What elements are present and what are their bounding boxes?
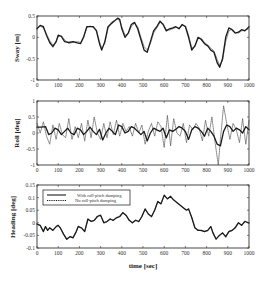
- y-tick-label: -0.1: [26, 245, 35, 251]
- roll-ylabel: Roll [deg]: [13, 118, 21, 147]
- x-tick-label: 100: [54, 250, 63, 256]
- y-tick-label: 0.1: [28, 195, 35, 201]
- x-tick-label: 100: [54, 82, 63, 88]
- y-tick-label: 0.15: [25, 182, 35, 188]
- x-tick-label: 700: [181, 167, 190, 173]
- y-tick-label: 0.5: [28, 114, 35, 120]
- x-tick-label: 100: [54, 167, 63, 173]
- x-tick-label: 1000: [244, 167, 255, 173]
- x-tick-label: 600: [160, 250, 169, 256]
- x-tick-label: 700: [181, 82, 190, 88]
- x-tick-label: 1000: [244, 82, 255, 88]
- x-tick-label: 400: [118, 250, 127, 256]
- x-tick-label: 400: [118, 82, 127, 88]
- x-tick-label: 300: [96, 82, 105, 88]
- sway-panel: 010020030040050060070080090010000.50-0.5…: [26, 13, 254, 88]
- y-tick-label: 0: [32, 34, 35, 40]
- y-tick-label: 0: [32, 220, 35, 226]
- x-tick-label: 500: [139, 167, 148, 173]
- legend-dotted-label: No roll-pitch damping: [75, 198, 117, 203]
- x-tick-label: 0: [36, 167, 39, 173]
- x-tick-label: 500: [139, 250, 148, 256]
- x-tick-label: 600: [160, 167, 169, 173]
- x-tick-label: 0: [36, 82, 39, 88]
- x-tick-label: 300: [96, 250, 105, 256]
- x-tick-label: 900: [224, 82, 233, 88]
- x-tick-label: 800: [202, 167, 211, 173]
- with-damping-line: [37, 125, 249, 146]
- x-tick-label: 600: [160, 82, 169, 88]
- x-tick-label: 900: [224, 167, 233, 173]
- x-tick-label: 200: [75, 167, 84, 173]
- no-damping-line: [37, 106, 249, 165]
- x-tick-label: 200: [75, 250, 84, 256]
- roll-panel: 0100200300400500600700800900100010.50-0.…: [26, 98, 254, 173]
- x-tick-label: 700: [181, 250, 190, 256]
- y-tick-label: 1: [32, 98, 35, 104]
- x-tick-label: 200: [75, 82, 84, 88]
- time-xlabel: time [sec]: [129, 262, 158, 270]
- y-tick-label: -1: [30, 162, 35, 168]
- figure: 010020030040050060070080090010000.50-0.5…: [0, 0, 269, 284]
- x-tick-label: 800: [202, 250, 211, 256]
- y-tick-label: 0: [32, 130, 35, 136]
- y-tick-label: -0.5: [26, 146, 35, 152]
- y-tick-label: 0.5: [28, 13, 35, 19]
- x-tick-label: 900: [224, 250, 233, 256]
- x-tick-label: 400: [118, 167, 127, 173]
- y-tick-label: 0.05: [25, 207, 35, 213]
- sway-ylabel: Sway [m]: [13, 34, 21, 62]
- x-tick-label: 1000: [244, 250, 255, 256]
- y-tick-label: -1: [30, 77, 35, 83]
- x-tick-label: 500: [139, 82, 148, 88]
- legend: With roll-pitch damping No roll-pitch da…: [43, 190, 130, 205]
- y-tick-label: -0.5: [26, 56, 35, 62]
- x-tick-label: 0: [36, 250, 39, 256]
- heading-ylabel: Heading [deg]: [9, 196, 17, 238]
- x-tick-label: 300: [96, 167, 105, 173]
- y-tick-label: -0.05: [24, 232, 36, 238]
- x-tick-label: 800: [202, 82, 211, 88]
